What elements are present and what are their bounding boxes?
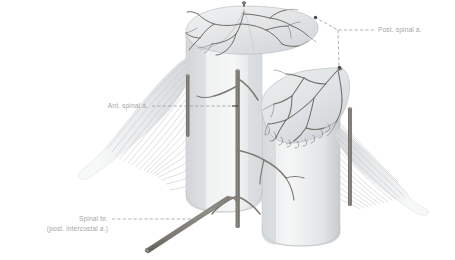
label-post-spinal-a-line1: Post. spinal a. [378,26,422,34]
leader-post-spinal-upper [316,18,374,30]
nerve-root-left-sheath [78,58,190,179]
label-spinal-br: Spinal br. (post. intercostal a.) [47,215,108,233]
cord-shading-left [188,34,206,210]
cord-shading-right [248,34,260,203]
anterior-spinal-artery-trunk [236,70,240,228]
label-spinal-br-line1: Spinal br. [79,215,108,223]
spinal-cord-body [186,32,340,246]
posterior-spinal-artery-left-cut-end [186,75,189,77]
upper-cut-surface [186,2,318,55]
nerve-root-left [78,58,190,179]
anatomy-illustration: Post. spinal a. Ant. spinal a. Spinal br… [0,0,455,260]
posterior-spinal-artery-right-trunk [348,108,352,206]
upper-posterior-stub-cap [242,2,246,5]
label-post-spinal-a: Post. spinal a. [378,26,422,34]
posterior-spinal-artery-right [348,107,352,206]
spinal-branch-trunk [145,196,229,252]
leader-post-spinal-lower [338,30,339,66]
posterior-spinal-artery-right-cut-end [348,107,352,109]
leader-dot-post-spinal-upper [314,16,317,19]
label-spinal-br-line2: (post. intercostal a.) [47,225,108,233]
label-ant-spinal-a: Ant. spinal a. [108,102,148,110]
label-ant-spinal-a-line1: Ant. spinal a. [108,102,148,110]
anterior-spinal-artery-cut-end [236,69,240,71]
anatomy-figure: Post. spinal a. Ant. spinal a. Spinal br… [0,0,455,260]
leader-dot-post-spinal-lower [338,66,341,69]
